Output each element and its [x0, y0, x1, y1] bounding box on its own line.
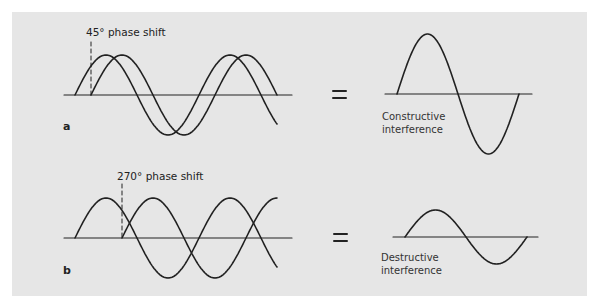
panel-a-caption-line-1: Constructive — [382, 110, 445, 123]
panel-b-phase-label: 270° phase shift — [117, 170, 203, 183]
panel-a-part-label: a — [63, 120, 70, 133]
panel-a-caption-line-2: interference — [382, 123, 445, 136]
panel-b-part-label: b — [63, 264, 71, 277]
wave-diagram — [0, 0, 598, 308]
panel-a-phase-label: 45° phase shift — [86, 26, 166, 39]
panel-b-caption-line-1: Destructive — [381, 251, 442, 264]
panel-a-result-caption: Constructive interference — [382, 110, 445, 136]
panel-b-caption-line-2: interference — [381, 264, 442, 277]
panel-b-result-caption: Destructive interference — [381, 251, 442, 277]
